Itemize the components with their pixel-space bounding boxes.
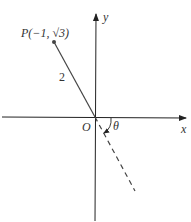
segment-label: 2 [59, 70, 65, 84]
point-label: P(−1, √3) [20, 26, 69, 40]
angle-label: θ [113, 119, 119, 133]
origin-label: O [82, 120, 91, 134]
x-axis [2, 117, 186, 118]
x-axis-label: x [180, 122, 187, 136]
y-axis-label: y [102, 10, 109, 24]
angle-arc [104, 118, 111, 133]
point-p [52, 40, 56, 44]
coordinate-diagram: P(−1, √3) 2 O θ x y [0, 0, 191, 222]
